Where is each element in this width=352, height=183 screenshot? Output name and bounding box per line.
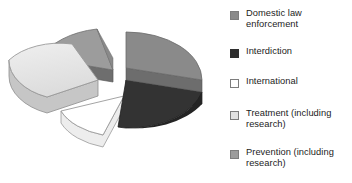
legend-label-domestic-law-enforcement: Domestic law enforcement (246, 8, 302, 30)
legend-item-interdiction[interactable]: Interdiction (230, 46, 352, 58)
swatch-international (230, 79, 239, 88)
legend-label-treatment: Treatment (including research) (246, 108, 331, 130)
swatch-treatment (230, 111, 239, 120)
chart-legend: Domestic law enforcement Interdiction In… (228, 0, 352, 183)
legend-label-prevention: Prevention (including research) (246, 147, 334, 169)
legend-item-prevention[interactable]: Prevention (including research) (230, 147, 352, 169)
legend-label-interdiction: Interdiction (246, 46, 292, 57)
swatch-domestic-law-enforcement (230, 11, 239, 20)
swatch-prevention (230, 150, 239, 159)
legend-item-international[interactable]: International (230, 76, 352, 88)
legend-item-domestic-law-enforcement[interactable]: Domestic law enforcement (230, 8, 352, 30)
legend-item-treatment[interactable]: Treatment (including research) (230, 108, 352, 130)
pie-chart-figure: Domestic law enforcement Interdiction In… (0, 0, 352, 183)
swatch-interdiction (230, 49, 239, 58)
pie-chart-graphic (0, 0, 228, 183)
pie-svg (0, 0, 228, 183)
legend-label-international: International (246, 76, 298, 87)
